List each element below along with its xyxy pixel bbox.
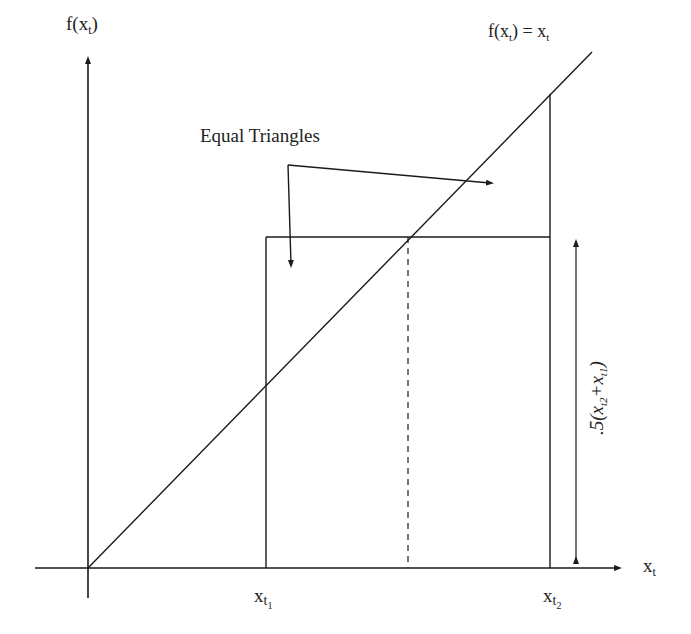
x-axis-label: xt	[643, 555, 657, 579]
tick-label-xt1: xt1	[254, 585, 272, 611]
identity-line-label: f(xt) = xt	[488, 21, 549, 43]
tick-label-xt2: xt2	[543, 585, 561, 611]
annotation-pointer-left	[288, 165, 291, 264]
equal-triangles-diagram: f(xt) f(xt) = xt Equal Triangles xt xt1 …	[0, 0, 691, 634]
identity-line	[88, 52, 592, 568]
annotation-label: Equal Triangles	[200, 125, 320, 146]
annotation-pointer-right	[288, 165, 490, 183]
height-bracket-label: .5(xt2+xt1)	[586, 361, 609, 435]
y-axis-label: f(xt)	[66, 13, 98, 37]
